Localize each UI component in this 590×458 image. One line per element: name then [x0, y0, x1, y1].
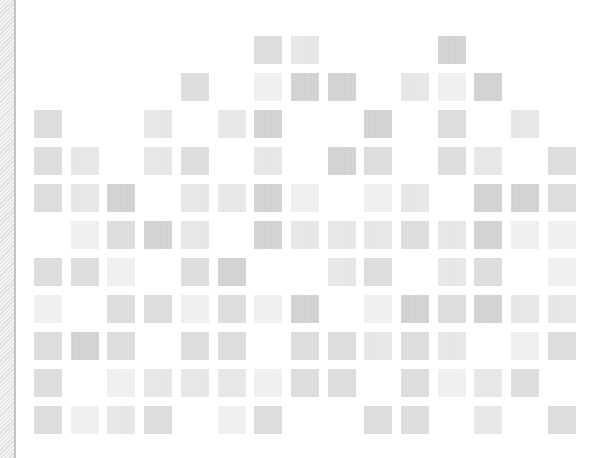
grid-tile: [107, 369, 135, 397]
grid-tile: [438, 221, 466, 249]
grid-tile: [144, 369, 172, 397]
grid-tile: [438, 110, 466, 138]
grid-tile: [328, 73, 356, 101]
grid-tile: [328, 332, 356, 360]
grid-tile: [218, 110, 246, 138]
grid-tile: [144, 295, 172, 323]
grid-tile: [291, 295, 319, 323]
grid-tile: [107, 184, 135, 212]
grid-tile: [291, 184, 319, 212]
grid-tile: [328, 147, 356, 175]
grid-tile: [107, 332, 135, 360]
grid-tile: [107, 406, 135, 434]
grid-tile: [548, 147, 576, 175]
grid-tile: [181, 332, 209, 360]
grid-tile: [364, 332, 392, 360]
grid-tile: [474, 295, 502, 323]
grid-tile: [254, 295, 282, 323]
grid-tile: [291, 73, 319, 101]
grid-tile: [364, 258, 392, 286]
grid-tile: [364, 221, 392, 249]
grid-tile: [511, 184, 539, 212]
grid-tile: [474, 184, 502, 212]
grid-tile: [438, 36, 466, 64]
grid-tile: [364, 110, 392, 138]
grid-tile: [401, 221, 429, 249]
grid-tile: [511, 110, 539, 138]
grid-tile: [218, 258, 246, 286]
grid-tile: [254, 406, 282, 434]
grid-tile: [218, 369, 246, 397]
grid-tile: [34, 369, 62, 397]
grid-tile: [107, 295, 135, 323]
grid-tile: [401, 406, 429, 434]
grid-tile: [144, 147, 172, 175]
grid-tile: [254, 36, 282, 64]
grid-tile: [254, 369, 282, 397]
grid-tile: [328, 221, 356, 249]
grid-tile: [438, 332, 466, 360]
grid-tile: [474, 221, 502, 249]
grid-tile: [181, 73, 209, 101]
grid-tile: [438, 369, 466, 397]
grid-tile: [511, 295, 539, 323]
grid-tile: [548, 295, 576, 323]
grid-tile: [144, 221, 172, 249]
grid-tile: [254, 147, 282, 175]
grid-tile: [218, 295, 246, 323]
grid-tile: [291, 369, 319, 397]
grid-tile: [401, 295, 429, 323]
grid-tile: [254, 221, 282, 249]
grid-tile: [218, 184, 246, 212]
grid-tile: [181, 221, 209, 249]
grid-tile: [144, 110, 172, 138]
grid-tile: [181, 295, 209, 323]
grid-tile: [71, 406, 99, 434]
grid-tile: [254, 73, 282, 101]
grid-tile: [511, 221, 539, 249]
grid-tile: [34, 406, 62, 434]
grid-tile: [107, 258, 135, 286]
grid-tile: [548, 184, 576, 212]
grid-tile: [71, 332, 99, 360]
grid-tile: [34, 147, 62, 175]
grid-tile: [548, 406, 576, 434]
grid-tile: [71, 147, 99, 175]
grid-tile: [328, 258, 356, 286]
grid-tile: [291, 332, 319, 360]
grid-tile: [474, 406, 502, 434]
grid-tile: [34, 110, 62, 138]
grid-tile: [34, 258, 62, 286]
grid-tile: [181, 184, 209, 212]
grid-tile: [181, 147, 209, 175]
grid-tile: [291, 36, 319, 64]
grid-tile: [474, 147, 502, 175]
grid-tile: [254, 184, 282, 212]
grid-tile: [438, 73, 466, 101]
grid-tile: [34, 184, 62, 212]
grid-tile: [438, 258, 466, 286]
grid-tile: [548, 332, 576, 360]
grid-tile: [511, 369, 539, 397]
grid-tile: [548, 258, 576, 286]
grid-tile: [34, 332, 62, 360]
grid-tile: [364, 147, 392, 175]
grid-tile: [71, 184, 99, 212]
grid-tile: [71, 221, 99, 249]
grid-tile: [181, 369, 209, 397]
grid-tile: [548, 221, 576, 249]
grid-tile: [291, 221, 319, 249]
grid-tile: [401, 184, 429, 212]
grid-tile: [401, 73, 429, 101]
grid-tile: [107, 221, 135, 249]
grid-tile: [511, 332, 539, 360]
grid-tile: [474, 73, 502, 101]
grid-tile: [34, 295, 62, 323]
grid-tile: [401, 332, 429, 360]
grid-tile: [71, 258, 99, 286]
grid-tile: [364, 406, 392, 434]
grid-tile: [438, 147, 466, 175]
grid-tile: [328, 369, 356, 397]
grid-tile: [218, 406, 246, 434]
grid-tile: [474, 369, 502, 397]
